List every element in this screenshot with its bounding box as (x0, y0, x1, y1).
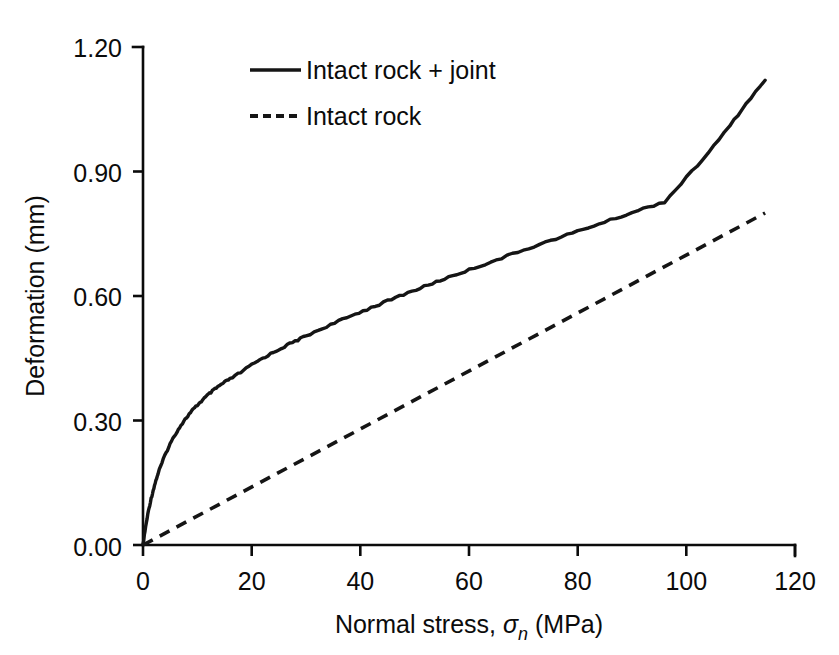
x-axis-title-sigma: σ (503, 610, 519, 638)
legend-label-intact-rock-plus-joint: Intact rock + joint (306, 56, 496, 84)
x-axis-ticks (143, 545, 795, 556)
x-tick-label-4: 80 (564, 567, 592, 595)
y-tick-label-2: 0.60 (73, 283, 122, 311)
x-tick-label-0: 0 (136, 567, 150, 595)
x-tick-label-6: 120 (774, 567, 816, 595)
series-intact-rock (143, 213, 765, 545)
y-axis-title: Deformation (mm) (21, 195, 49, 396)
y-tick-label-1: 0.30 (73, 408, 122, 436)
x-axis-title-prefix: Normal stress, (335, 610, 503, 638)
x-tick-label-5: 100 (665, 567, 707, 595)
x-axis-title-suffix: (MPa) (528, 610, 603, 638)
x-tick-label-3: 60 (455, 567, 483, 595)
chart-legend: Intact rock + joint Intact rock (250, 56, 496, 130)
y-tick-label-3: 0.90 (73, 159, 122, 187)
x-axis-title: Normal stress, σn (MPa) (335, 610, 603, 644)
y-axis-ticks (133, 172, 143, 546)
x-tick-label-2: 40 (346, 567, 374, 595)
deformation-vs-normal-stress-chart: 0.00 0.30 0.60 0.90 1.20 0 20 40 60 80 1… (0, 0, 839, 655)
series-intact-rock-plus-joint (143, 80, 765, 544)
y-tick-label-0: 0.00 (73, 533, 122, 561)
x-tick-label-1: 20 (238, 567, 266, 595)
legend-label-intact-rock: Intact rock (306, 102, 422, 130)
x-axis-title-subscript: n (518, 624, 528, 644)
chart-figure: 0.00 0.30 0.60 0.90 1.20 0 20 40 60 80 1… (0, 0, 839, 655)
y-tick-label-4: 1.20 (73, 34, 122, 62)
